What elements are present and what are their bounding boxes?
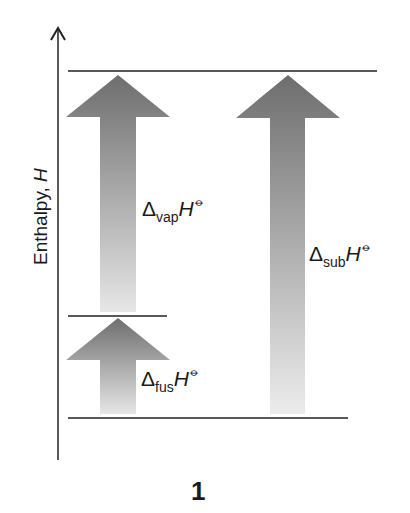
fusion-label: ΔfusH⦵ bbox=[141, 368, 200, 389]
standard-state-icon: ⦵ bbox=[194, 194, 205, 209]
vaporization-label: ΔvapH⦵ bbox=[142, 198, 205, 219]
y-axis-label-text: Enthalpy, bbox=[30, 182, 51, 265]
fusion-arrow bbox=[66, 318, 170, 414]
y-axis-label-symbol: H bbox=[30, 168, 51, 182]
subscript: fus bbox=[155, 379, 174, 395]
y-axis bbox=[51, 28, 65, 460]
vaporization-arrow bbox=[66, 75, 170, 312]
delta-symbol: Δ bbox=[141, 367, 155, 390]
subscript: sub bbox=[323, 254, 346, 270]
subscript: vap bbox=[156, 209, 179, 225]
figure-caption: 1 bbox=[191, 476, 205, 507]
y-axis-label: Enthalpy, H bbox=[30, 168, 52, 265]
delta-symbol: Δ bbox=[142, 197, 156, 220]
enthalpy-symbol: H bbox=[179, 197, 194, 220]
delta-symbol: Δ bbox=[309, 242, 323, 265]
standard-state-icon: ⦵ bbox=[189, 364, 200, 379]
standard-state-icon: ⦵ bbox=[361, 239, 372, 254]
sublimation-label: ΔsubH⦵ bbox=[309, 243, 372, 264]
enthalpy-symbol: H bbox=[346, 242, 361, 265]
enthalpy-symbol: H bbox=[174, 367, 189, 390]
